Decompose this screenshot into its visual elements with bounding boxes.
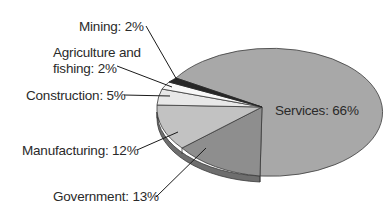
label-manufacturing: Manufacturing: 12% <box>22 143 139 158</box>
label-construction: Construction: 5% <box>26 88 126 103</box>
label-services: Services: 66% <box>275 103 359 118</box>
label-government: Government: 13% <box>53 189 159 204</box>
pie-chart: Mining: 2% Agriculture and fishing: 2% C… <box>0 0 388 214</box>
label-agriculture-line2: fishing: 2% <box>53 61 117 76</box>
label-agriculture-line1: Agriculture and <box>53 45 141 60</box>
label-mining: Mining: 2% <box>79 19 144 34</box>
